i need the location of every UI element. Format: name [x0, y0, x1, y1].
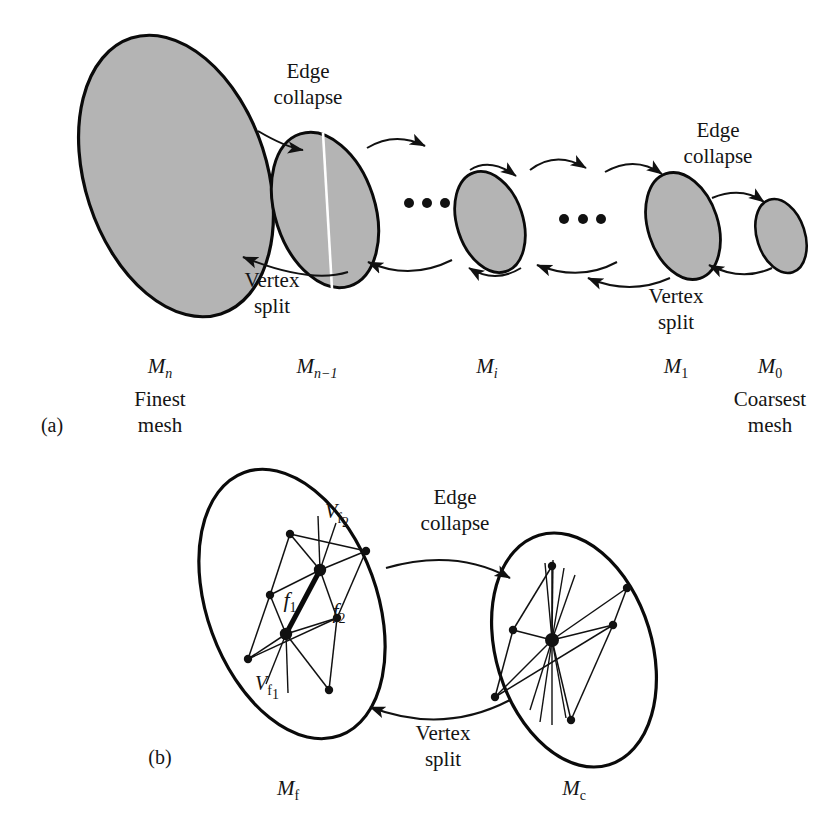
- mesh-mn-caption-line1: Finest: [134, 387, 186, 411]
- op-a2-forward-line2: collapse: [684, 144, 753, 168]
- ellipsis-a-1: [404, 198, 450, 208]
- mesh-mc-merged-vertex: [545, 633, 559, 647]
- op-a2-forward-line1: Edge: [696, 118, 739, 142]
- figure-canvas: Edge collapse Vertex split Edge collapse…: [0, 0, 832, 835]
- op-a2-reverse-line2: split: [658, 310, 694, 334]
- op-a1-forward-line1: Edge: [286, 59, 329, 83]
- op-a1-forward-line2: collapse: [274, 85, 343, 109]
- op-a1-reverse-line2: split: [254, 294, 290, 318]
- panel-b-tag: (b): [148, 746, 171, 769]
- ellipsis-a-2: [559, 214, 606, 224]
- mesh-mf-vertex-vf1: [280, 628, 292, 640]
- op-a1-reverse-line1: Vertex: [245, 268, 300, 292]
- op-b-reverse-line1: Vertex: [416, 721, 471, 745]
- op-a2-reverse-line1: Vertex: [649, 284, 704, 308]
- panel-a-tag: (a): [41, 414, 63, 437]
- progressive-mesh-figure: Edge collapse Vertex split Edge collapse…: [0, 0, 832, 835]
- op-b-forward-line2: collapse: [421, 511, 490, 535]
- mesh-mf-vertex-vf2: [314, 564, 326, 576]
- op-b-forward-line1: Edge: [433, 485, 476, 509]
- mesh-mn-caption-line2: mesh: [138, 413, 183, 437]
- mesh-m0-caption-line1: Coarsest: [734, 387, 806, 411]
- mesh-m0-caption-line2: mesh: [748, 413, 793, 437]
- op-b-reverse-line2: split: [425, 747, 461, 771]
